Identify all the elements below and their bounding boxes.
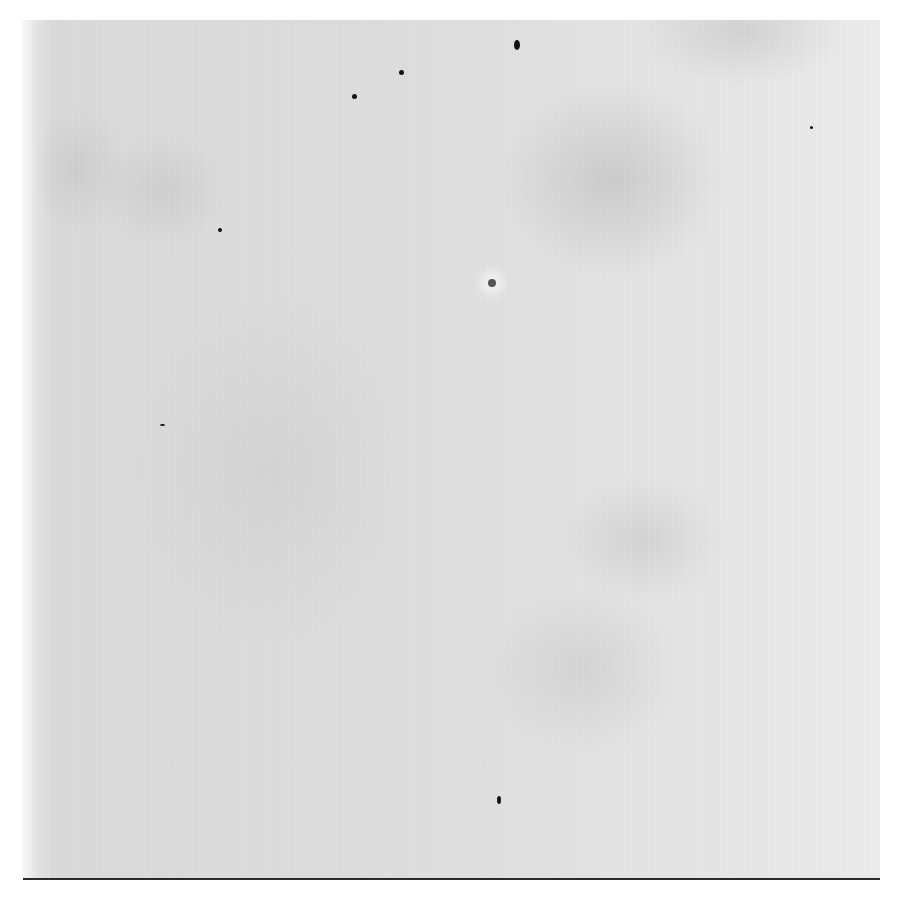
speck-6	[497, 796, 501, 804]
speck-7	[160, 424, 165, 426]
speck-1	[514, 40, 520, 50]
paper-sheet	[23, 20, 880, 880]
speck-3	[352, 94, 357, 99]
left-margin-strip	[23, 20, 37, 878]
speck-2	[399, 70, 404, 75]
speck-5	[810, 126, 813, 129]
speck-4	[218, 228, 222, 232]
ring-blot	[488, 279, 496, 287]
